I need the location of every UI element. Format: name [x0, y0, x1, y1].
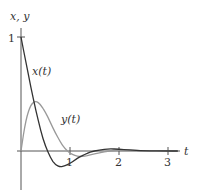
- y-axis-label: x, y: [10, 10, 30, 23]
- chart-canvas: 1 1 2 3 x, y t x(t) y(t): [0, 0, 199, 194]
- series-y-curve: [21, 102, 178, 157]
- y-tick-label-1: 1: [8, 32, 15, 45]
- x-tick-label-2: 2: [115, 156, 122, 169]
- x-tick-label-3: 3: [164, 156, 171, 169]
- x-axis-label: t: [184, 145, 189, 158]
- series-x-label: x(t): [32, 65, 51, 78]
- series-x-curve: [21, 37, 178, 167]
- series-y-label: y(t): [60, 113, 80, 126]
